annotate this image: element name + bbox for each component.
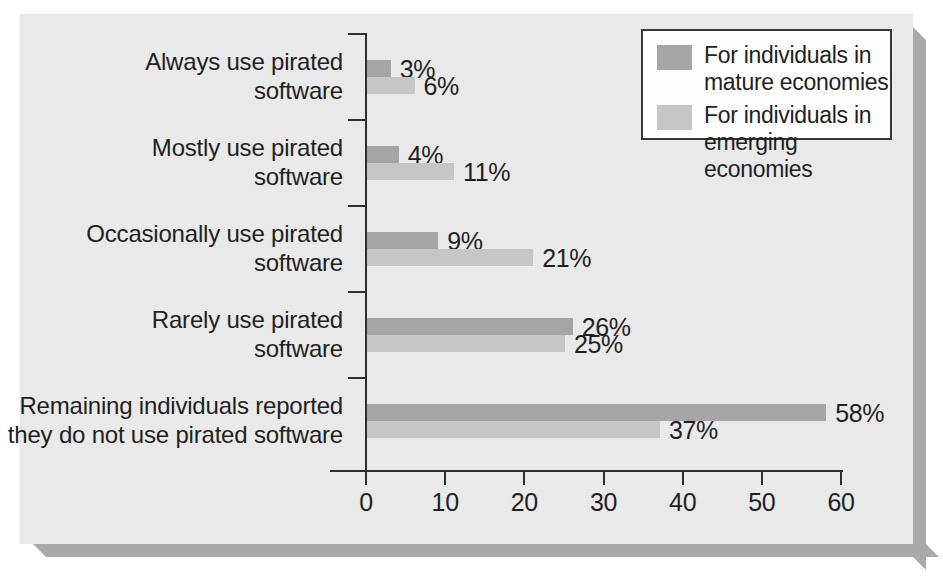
panel-shadow-right: [913, 27, 926, 570]
bar-value-label: 25%: [574, 329, 623, 358]
bar-mature: 26%: [367, 318, 573, 335]
legend-label-mature-line1: For individuals in: [704, 42, 871, 68]
category-label-line: Always use pirated: [0, 47, 343, 76]
category-group: Occasionally use piratedsoftware9%21%: [365, 232, 840, 266]
category-label-line: Rarely use pirated: [0, 305, 343, 334]
x-axis-tick-label: 10: [432, 488, 459, 517]
x-axis-tick-label: 0: [359, 488, 373, 517]
bar-mature: 9%: [367, 232, 438, 249]
x-axis-tick: [761, 472, 763, 485]
category-label-line: software: [0, 162, 343, 191]
legend-label-mature-line2: mature economies: [704, 69, 888, 95]
bar-emerging: 6%: [367, 77, 415, 94]
y-axis-tick: [348, 291, 366, 293]
bar-value-label: 21%: [542, 243, 591, 272]
x-axis-tick-label: 20: [511, 488, 538, 517]
x-axis-tick: [603, 472, 605, 485]
category-label-line: Occasionally use pirated: [0, 219, 343, 248]
category-label-line: software: [0, 248, 343, 277]
x-axis-tick-label: 50: [748, 488, 775, 517]
category-label: Mostly use piratedsoftware: [0, 133, 343, 191]
x-axis-tick-label: 40: [669, 488, 696, 517]
category-label: Rarely use piratedsoftware: [0, 305, 343, 363]
bar-value-label: 37%: [669, 415, 718, 444]
chart-legend: For individuals in mature economies For …: [641, 29, 892, 140]
x-axis-tick-label: 60: [827, 488, 854, 517]
bar-mature: 3%: [367, 60, 391, 77]
category-label-line: software: [0, 334, 343, 363]
x-axis-tick-label: 30: [590, 488, 617, 517]
x-axis-tick: [365, 472, 367, 485]
legend-label-mature: For individuals in mature economies: [704, 42, 888, 96]
legend-item-emerging: For individuals in emerging economies: [657, 102, 890, 183]
category-label-line: they do not use pirated software: [0, 420, 343, 449]
legend-swatch-mature-icon: [657, 45, 692, 70]
bar-emerging: 37%: [367, 421, 660, 438]
category-label: Always use piratedsoftware: [0, 47, 343, 105]
y-axis-tick: [348, 119, 366, 121]
category-label-line: Mostly use pirated: [0, 133, 343, 162]
x-axis-tick: [444, 472, 446, 485]
x-axis-tick: [682, 472, 684, 485]
bar-emerging: 25%: [367, 335, 565, 352]
category-label-line: Remaining individuals reported: [0, 391, 343, 420]
category-group: Remaining individuals reportedthey do no…: [365, 404, 840, 438]
y-axis-tick: [348, 470, 366, 472]
legend-label-emerging-line1: For individuals in: [704, 102, 871, 128]
legend-label-emerging-line2: emerging economies: [704, 129, 813, 182]
panel-shadow-bottom: [33, 544, 939, 557]
bar-emerging: 11%: [367, 163, 454, 180]
category-label: Occasionally use piratedsoftware: [0, 219, 343, 277]
legend-label-emerging: For individuals in emerging economies: [704, 102, 890, 183]
y-axis-tick: [348, 205, 366, 207]
y-axis-tick: [348, 377, 366, 379]
legend-swatch-emerging-icon: [657, 105, 692, 130]
category-label: Remaining individuals reportedthey do no…: [0, 391, 343, 449]
bar-value-label: 11%: [463, 157, 510, 186]
bar-value-label: 58%: [835, 398, 884, 427]
bar-mature: 58%: [367, 404, 826, 421]
y-axis-tick: [348, 33, 366, 35]
x-axis-tick: [523, 472, 525, 485]
legend-item-mature: For individuals in mature economies: [657, 42, 890, 96]
x-axis-tick: [840, 472, 842, 485]
category-label-line: software: [0, 76, 343, 105]
x-axis-line: [330, 470, 843, 472]
bar-mature: 4%: [367, 146, 399, 163]
bar-value-label: 6%: [424, 71, 459, 100]
bar-emerging: 21%: [367, 249, 533, 266]
category-group: Rarely use piratedsoftware26%25%: [365, 318, 840, 352]
